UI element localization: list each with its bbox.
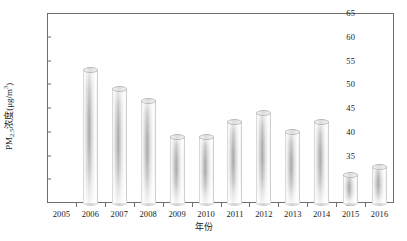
bar-top-ellipse — [256, 110, 271, 116]
y-axis-title-main: PM — [4, 137, 14, 150]
bar-2009 — [170, 134, 185, 204]
bar-body — [83, 70, 98, 203]
x-axis-tick-mark — [163, 203, 164, 207]
bar-2015 — [343, 172, 358, 204]
bar-2012 — [256, 110, 271, 203]
bar-top-ellipse — [170, 134, 185, 140]
bar-2007 — [112, 86, 127, 203]
y-axis-title-superscript: 3 — [2, 86, 9, 89]
bar-body — [112, 89, 127, 203]
y-axis-title-subscript: 2.5 — [8, 129, 15, 137]
x-axis-tick-mark — [134, 203, 135, 207]
x-axis-title: 年份 — [0, 222, 407, 233]
y-axis-tick-label: 60 — [315, 33, 355, 42]
x-axis-tick-mark — [249, 203, 250, 207]
bar-body — [372, 167, 387, 203]
bar-top-ellipse — [112, 86, 127, 92]
y-axis-tick-label: 50 — [315, 80, 355, 89]
bar-2008 — [141, 98, 156, 203]
x-axis-tick-mark — [192, 203, 193, 207]
bar-body — [141, 101, 156, 203]
y-axis-tick-mark — [47, 84, 51, 85]
x-axis-tick-mark — [278, 203, 279, 207]
y-axis-tick-mark — [47, 131, 51, 132]
y-axis-tick-mark — [47, 36, 51, 37]
bar-body — [227, 122, 242, 203]
bar-body — [199, 137, 214, 204]
y-axis-title-mid: 浓度(μg/m — [4, 89, 14, 129]
bar-2016 — [372, 164, 387, 203]
y-axis-title: PM2.5浓度(μg/m3) — [1, 41, 18, 191]
bar-2013 — [285, 129, 300, 203]
bar-2006 — [83, 67, 98, 203]
bar-body — [170, 137, 185, 204]
y-axis-tick-mark — [47, 60, 51, 61]
x-axis-tick-mark — [365, 203, 366, 207]
y-axis-tick-label: 45 — [315, 104, 355, 113]
x-axis-tick-mark — [336, 203, 337, 207]
x-axis-tick-mark — [76, 203, 77, 207]
bar-2011 — [227, 119, 242, 203]
x-axis-tick-mark — [221, 203, 222, 207]
bar-body — [314, 122, 329, 203]
bar-body — [256, 113, 271, 203]
y-axis-tick-mark — [47, 108, 51, 109]
x-axis-tick-mark — [307, 203, 308, 207]
bar-top-ellipse — [83, 67, 98, 73]
bar-body — [343, 175, 358, 204]
bar-body — [285, 132, 300, 203]
y-axis-tick-label: 55 — [315, 56, 355, 65]
bar-2014 — [314, 119, 329, 203]
y-axis-tick-mark — [47, 155, 51, 156]
bar-top-ellipse — [141, 98, 156, 104]
y-axis-title-end: ) — [4, 83, 14, 86]
y-axis-tick-mark — [47, 179, 51, 180]
x-axis-tick-mark — [105, 203, 106, 207]
bar-top-ellipse — [285, 129, 300, 135]
y-axis-tick-label: 65 — [315, 9, 355, 18]
pm25-bar-chart: 253035404550556065 PM2.5浓度(μg/m3) 200520… — [0, 0, 407, 241]
bar-top-ellipse — [343, 172, 358, 178]
bar-top-ellipse — [199, 134, 214, 140]
x-axis-tick-label: 2016 — [360, 209, 400, 219]
bar-2010 — [199, 134, 214, 204]
